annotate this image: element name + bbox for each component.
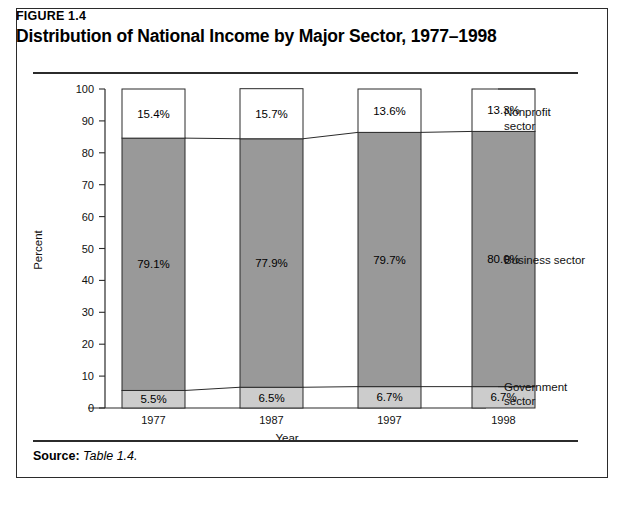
y-tick-label: 50: [82, 243, 94, 255]
bar-value-label: 77.9%: [255, 257, 288, 269]
y-tick-label: 40: [82, 274, 94, 286]
y-tick-label: 0: [88, 402, 94, 414]
y-tick-label: 90: [82, 115, 94, 127]
x-tick-label: 1998: [491, 414, 515, 426]
x-tick-label: 1987: [259, 414, 283, 426]
source-divider: [33, 440, 578, 442]
chart-canvas: 0102030405060708090100 Percent 5.5%6.5%6…: [16, 8, 608, 478]
bars-group: [122, 89, 535, 408]
series-connector-lines: [185, 131, 472, 390]
bar-value-label: 6.7%: [376, 391, 402, 403]
series-connector: [421, 131, 472, 132]
x-tick-label: 1997: [377, 414, 401, 426]
y-tick-label: 10: [82, 370, 94, 382]
bar-value-label: 15.7%: [255, 108, 288, 120]
y-tick-label: 70: [82, 179, 94, 191]
bar-value-label: 15.4%: [137, 108, 170, 120]
y-tick-label: 20: [82, 338, 94, 350]
legend-label: Nonprofit: [504, 106, 551, 118]
y-tick-label: 60: [82, 211, 94, 223]
bar-value-label: 79.1%: [137, 258, 170, 270]
series-connector: [185, 387, 240, 390]
series-connector: [185, 138, 240, 139]
x-axis-tick-labels: 1977198719971998: [141, 414, 515, 426]
bar-value-label: 13.6%: [373, 105, 406, 117]
y-tick-label: 80: [82, 147, 94, 159]
stacked-bar-chart: 0102030405060708090100 Percent 5.5%6.5%6…: [16, 8, 608, 478]
series-connector: [303, 387, 358, 388]
bar-value-label: 5.5%: [140, 393, 166, 405]
source-value: Table 1.4.: [83, 449, 137, 463]
legend-label: Government: [504, 381, 568, 393]
y-axis-ticks: 0102030405060708090100: [76, 83, 105, 414]
x-axis-title: Year: [275, 432, 298, 444]
bar-value-label: 79.7%: [373, 254, 406, 266]
bar-value-labels: 5.5%6.5%6.7%6.7%79.1%77.9%79.7%80.0%15.4…: [137, 104, 520, 405]
bar-value-label: 6.5%: [258, 392, 284, 404]
source-label: Source:: [33, 449, 80, 463]
legend-label: Business sector: [504, 254, 585, 266]
legend-label: sector: [504, 395, 535, 407]
y-axis-title: Percent: [32, 229, 44, 269]
source-note: Source: Table 1.4.: [33, 448, 137, 464]
series-connector: [303, 132, 358, 138]
y-tick-label: 100: [76, 83, 94, 95]
x-tick-label: 1977: [141, 414, 165, 426]
legend-label: sector: [504, 120, 535, 132]
y-tick-label: 30: [82, 306, 94, 318]
